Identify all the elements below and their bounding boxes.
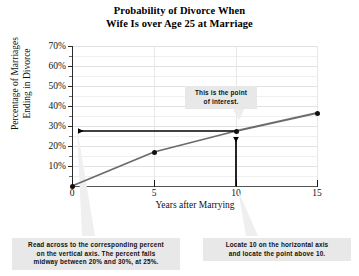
- x-tick-5: [154, 180, 155, 187]
- chart-title-line-2: Wife Is over Age 25 at Marriage: [0, 18, 359, 31]
- gridline-minor-5: [72, 176, 317, 177]
- callout-locate-ten-line-1: Locate 10 on the horizontal axis: [208, 241, 346, 250]
- vgridline-5: [154, 46, 155, 186]
- callout-point-of-interest: This is the point of interest.: [185, 86, 257, 109]
- callout-read-across-line-1: Read across to the corresponding percent: [17, 241, 175, 250]
- y-tick-label-20: 20%: [49, 141, 66, 151]
- y-tick-60: [68, 66, 72, 67]
- y-axis-title-line-2: Ending in Divorce: [21, 19, 33, 149]
- data-point-10: [234, 129, 239, 134]
- gridline-minor-65: [72, 56, 317, 57]
- gridline-minor-25: [72, 136, 317, 137]
- y-tick-minor-25: [69, 136, 72, 137]
- gridline-10: [72, 166, 317, 167]
- callout-locate-ten: Locate 10 on the horizontal axis and loc…: [203, 238, 351, 261]
- gridline-60: [72, 66, 317, 67]
- y-tick-label-30: 30%: [49, 121, 66, 131]
- y-tick-minor-65: [69, 56, 72, 57]
- x-tick-10: [236, 180, 237, 187]
- y-tick-minor-45: [69, 96, 72, 97]
- x-axis-line: [72, 186, 318, 187]
- gridline-20: [72, 146, 317, 147]
- y-axis-line: [72, 46, 73, 187]
- x-tick-label-10: 10: [224, 188, 248, 198]
- x-tick-label-15: 15: [305, 188, 329, 198]
- y-tick-50: [68, 86, 72, 87]
- x-tick-label-5: 5: [142, 188, 166, 198]
- y-tick-minor-35: [69, 116, 72, 117]
- vgridline-15: [317, 46, 318, 186]
- y-tick-70: [68, 46, 72, 47]
- y-tick-minor-15: [69, 156, 72, 157]
- y-tick-minor-5: [69, 176, 72, 177]
- data-point-5: [152, 150, 157, 155]
- y-tick-label-40: 40%: [49, 101, 66, 111]
- y-tick-label-60: 60%: [49, 61, 66, 71]
- y-tick-minor-55: [69, 76, 72, 77]
- gridline-minor-35: [72, 116, 317, 117]
- y-tick-20: [68, 146, 72, 147]
- y-tick-label-10: 10%: [49, 161, 66, 171]
- callout-tail-read-across: [77, 128, 95, 236]
- callout-read-across-line-2: on the vertical axis. The percent falls: [17, 250, 175, 259]
- gridline-70: [72, 46, 317, 47]
- y-tick-10: [68, 166, 72, 167]
- y-tick-30: [68, 126, 72, 127]
- y-axis-title: Percentage of Marriages Ending in Divorc…: [10, 19, 33, 149]
- y-tick-label-70: 70%: [49, 41, 66, 51]
- x-tick-15: [317, 180, 318, 187]
- callout-point-of-interest-line-2: of interest.: [190, 98, 252, 107]
- chart-title: Probability of Divorce When Wife Is over…: [0, 5, 359, 30]
- chart-title-line-1: Probability of Divorce When: [0, 5, 359, 18]
- gridline-minor-15: [72, 156, 317, 157]
- callout-read-across: Read across to the corresponding percent…: [12, 238, 180, 270]
- data-point-15: [315, 111, 320, 116]
- callout-read-across-line-3: midway between 20% and 30%, at 25%.: [17, 258, 175, 267]
- callout-point-of-interest-line-1: This is the point: [190, 89, 252, 98]
- callout-locate-ten-line-2: and locate the point above 10.: [208, 250, 346, 259]
- x-axis-title: Years after Marrying: [72, 200, 318, 210]
- chart-figure: Probability of Divorce When Wife Is over…: [0, 0, 359, 276]
- gridline-30: [72, 126, 317, 127]
- data-point-0: [70, 184, 75, 189]
- y-tick-40: [68, 106, 72, 107]
- y-tick-label-50: 50%: [49, 81, 66, 91]
- x-tick-label-0: 0: [60, 188, 84, 198]
- vgridline-10: [236, 46, 237, 186]
- y-axis-title-line-1: Percentage of Marriages: [10, 19, 22, 149]
- gridline-minor-55: [72, 76, 317, 77]
